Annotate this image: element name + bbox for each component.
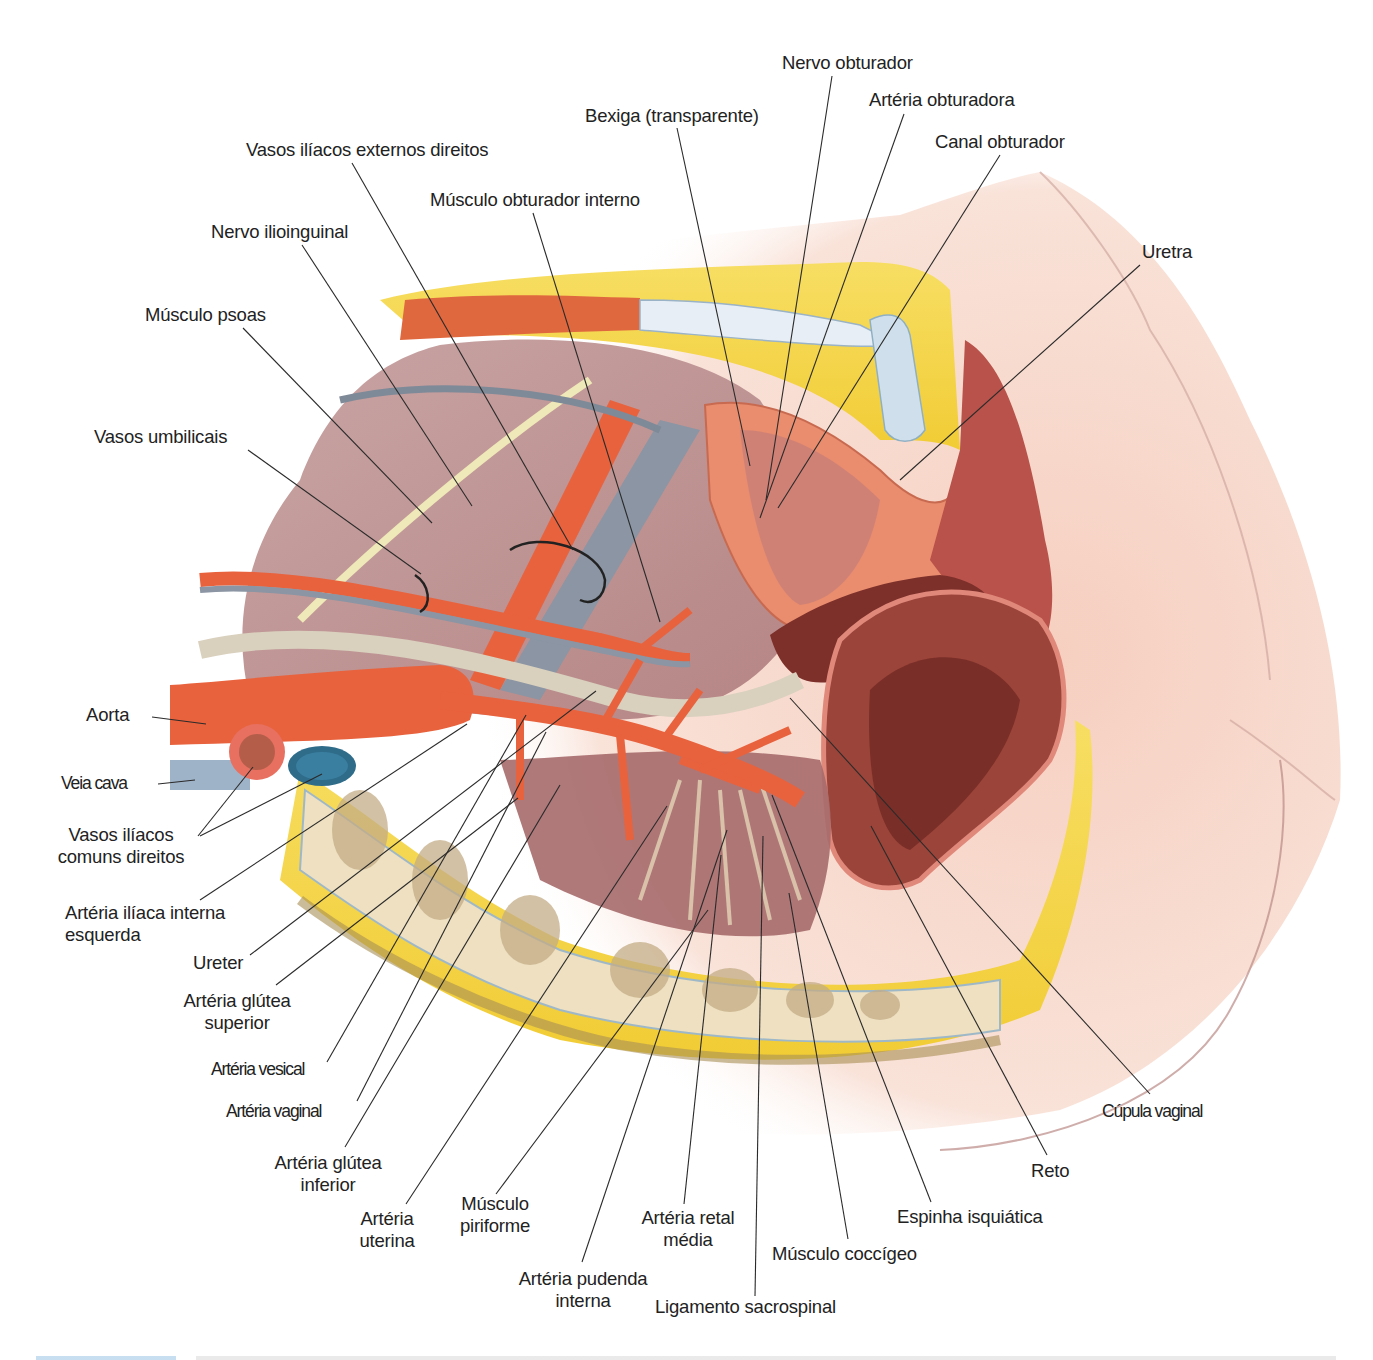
label-arteria-vaginal: Artéria vaginal bbox=[226, 1100, 321, 1122]
label-uretra: Uretra bbox=[1142, 241, 1192, 263]
label-ligamento-sacrospinal: Ligamento sacrospinal bbox=[655, 1296, 836, 1318]
label-aorta: Aorta bbox=[86, 704, 129, 726]
label-veia-cava: Veia cava bbox=[61, 772, 127, 794]
leader-lines bbox=[0, 0, 1373, 1360]
pelvic-anatomy-figure: Nervo obturadorArtéria obturadoraBexiga … bbox=[0, 0, 1373, 1360]
leader-vasos-iliacos-comuns bbox=[200, 774, 322, 836]
leader-ligamento-sacrospinal bbox=[755, 836, 763, 1296]
leader-arteria-iliaca-interna bbox=[200, 724, 467, 900]
label-vasos-umbilicais: Vasos umbilicais bbox=[94, 426, 227, 448]
leader-uretra bbox=[900, 265, 1140, 480]
leader-musculo-psoas bbox=[243, 328, 432, 523]
label-cupula-vaginal: Cúpula vaginal bbox=[1102, 1100, 1202, 1122]
leader-musculo-coccigeo bbox=[789, 893, 848, 1239]
leader-musculo-piriforme bbox=[496, 910, 708, 1194]
label-arteria-pudenda-interna: Artéria pudenda interna bbox=[509, 1268, 657, 1312]
leader-arteria-obturadora bbox=[760, 114, 904, 518]
label-reto: Reto bbox=[1031, 1160, 1069, 1182]
label-musculo-psoas: Músculo psoas bbox=[145, 304, 266, 326]
label-arteria-glutea-superior: Artéria glútea superior bbox=[172, 990, 302, 1034]
label-vasos-iliacos-externos: Vasos ilíacos externos direitos bbox=[246, 139, 488, 161]
leader-arteria-retal-media bbox=[684, 855, 721, 1204]
label-vasos-iliacos-comuns: Vasos ilíacos comuns direitos bbox=[46, 824, 196, 868]
label-musculo-coccigeo: Músculo coccígeo bbox=[772, 1243, 917, 1265]
label-musculo-piriforme: Músculo piriforme bbox=[452, 1193, 538, 1237]
leader-ureter bbox=[250, 691, 596, 955]
label-arteria-obturadora: Artéria obturadora bbox=[869, 89, 1015, 111]
leader-arteria-uterina bbox=[406, 806, 667, 1204]
leader-arteria-pudenda-interna bbox=[582, 830, 727, 1262]
figure-caption-cutoff bbox=[36, 1350, 1336, 1360]
label-musculo-obturador-interno: Músculo obturador interno bbox=[430, 189, 640, 211]
leader-nervo-obturador bbox=[766, 76, 832, 500]
leader-vasos-iliacos-comuns bbox=[198, 767, 253, 836]
leader-nervo-ilioinguinal bbox=[302, 245, 472, 506]
leader-veia-cava bbox=[158, 780, 195, 784]
leader-aorta bbox=[152, 717, 206, 724]
label-arteria-iliaca-interna: Artéria ilíaca interna esquerda bbox=[65, 902, 225, 946]
label-arteria-vesical: Artéria vesical bbox=[211, 1058, 304, 1080]
label-bexiga: Bexiga (transparente) bbox=[585, 105, 759, 127]
label-arteria-glutea-inferior: Artéria glútea inferior bbox=[264, 1152, 392, 1196]
label-nervo-ilioinguinal: Nervo ilioinguinal bbox=[211, 221, 348, 243]
label-arteria-uterina: Artéria uterina bbox=[352, 1208, 422, 1252]
leader-musculo-obturador-interno bbox=[533, 213, 660, 622]
leader-espinha-isquiatica bbox=[772, 795, 931, 1202]
label-canal-obturador: Canal obturador bbox=[935, 131, 1065, 153]
leader-bexiga bbox=[677, 128, 750, 466]
label-arteria-retal-media: Artéria retal média bbox=[632, 1207, 744, 1251]
leader-cupula-vaginal bbox=[790, 698, 1150, 1094]
label-nervo-obturador: Nervo obturador bbox=[782, 52, 913, 74]
label-espinha-isquiatica: Espinha isquiática bbox=[897, 1206, 1043, 1228]
leader-arteria-glutea-inferior bbox=[345, 785, 560, 1147]
leader-vasos-umbilicais bbox=[248, 450, 421, 574]
leader-reto bbox=[871, 826, 1047, 1155]
leader-arteria-vaginal bbox=[357, 732, 546, 1101]
label-ureter: Ureter bbox=[193, 952, 243, 974]
